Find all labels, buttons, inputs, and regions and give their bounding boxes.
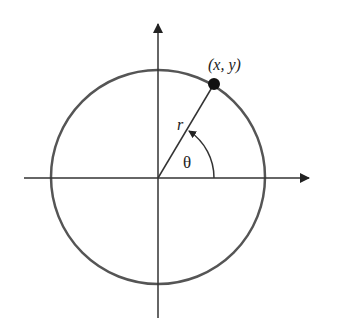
radius-label: r: [177, 116, 184, 133]
polar-diagram: (x, y) r θ: [0, 0, 337, 321]
angle-label: θ: [183, 153, 191, 172]
point-marker: [208, 78, 220, 90]
point-label: (x, y): [208, 56, 241, 74]
angle-arc: [189, 131, 214, 178]
